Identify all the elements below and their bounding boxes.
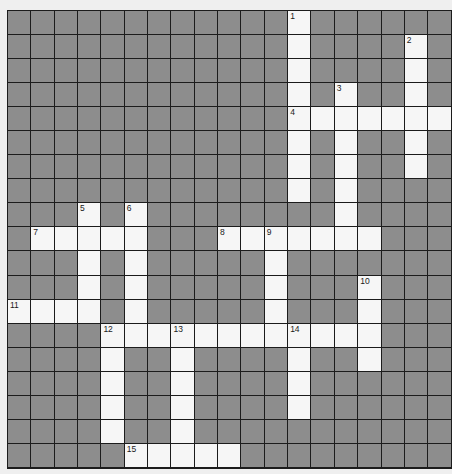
answer-cell[interactable]: 12 [101,324,124,348]
answer-cell[interactable] [428,107,451,131]
block-cell [55,203,78,227]
block-cell [358,35,381,59]
answer-cell[interactable] [335,203,358,227]
answer-cell[interactable] [241,227,264,251]
block-cell [148,203,171,227]
answer-cell[interactable] [171,420,194,444]
block-cell [241,11,264,35]
answer-cell[interactable] [265,300,288,324]
answer-cell[interactable] [218,324,241,348]
answer-cell[interactable] [55,227,78,251]
answer-cell[interactable] [101,372,124,396]
answer-cell[interactable] [382,107,405,131]
answer-cell[interactable]: 5 [78,203,101,227]
answer-cell[interactable] [288,179,311,203]
answer-cell[interactable] [78,251,101,275]
answer-cell[interactable] [405,83,428,107]
block-cell [148,59,171,83]
answer-cell[interactable] [358,348,381,372]
answer-cell[interactable] [125,300,148,324]
block-cell [428,179,451,203]
block-cell [358,420,381,444]
answer-cell[interactable] [405,131,428,155]
answer-cell[interactable]: 2 [405,35,428,59]
answer-cell[interactable] [125,251,148,275]
answer-cell[interactable] [288,372,311,396]
answer-cell[interactable] [101,348,124,372]
answer-cell[interactable]: 13 [171,324,194,348]
answer-cell[interactable] [288,227,311,251]
answer-cell[interactable] [31,300,54,324]
answer-cell[interactable] [335,179,358,203]
answer-cell[interactable] [358,324,381,348]
block-cell [265,203,288,227]
answer-cell[interactable] [125,324,148,348]
answer-cell[interactable]: 7 [31,227,54,251]
answer-cell[interactable] [405,107,428,131]
block-cell [358,203,381,227]
answer-cell[interactable] [335,131,358,155]
block-cell [78,444,101,468]
answer-cell[interactable] [148,324,171,348]
answer-cell[interactable]: 10 [358,276,381,300]
answer-cell[interactable] [288,59,311,83]
answer-cell[interactable] [265,276,288,300]
answer-cell[interactable] [218,444,241,468]
block-cell [218,155,241,179]
answer-cell[interactable] [405,59,428,83]
answer-cell[interactable]: 9 [265,227,288,251]
answer-cell[interactable] [358,107,381,131]
answer-cell[interactable] [311,107,334,131]
answer-cell[interactable] [288,131,311,155]
answer-cell[interactable] [335,107,358,131]
answer-cell[interactable] [78,227,101,251]
answer-cell[interactable] [148,444,171,468]
answer-cell[interactable]: 15 [125,444,148,468]
answer-cell[interactable] [335,227,358,251]
answer-cell[interactable]: 8 [218,227,241,251]
block-cell [8,11,31,35]
answer-cell[interactable] [288,396,311,420]
answer-cell[interactable] [265,251,288,275]
answer-cell[interactable] [311,324,334,348]
answer-cell[interactable] [288,83,311,107]
answer-cell[interactable] [288,35,311,59]
block-cell [148,35,171,59]
answer-cell[interactable] [288,155,311,179]
answer-cell[interactable] [335,155,358,179]
answer-cell[interactable] [101,420,124,444]
answer-cell[interactable] [195,324,218,348]
answer-cell[interactable] [125,227,148,251]
block-cell [428,444,451,468]
answer-cell[interactable] [195,444,218,468]
answer-cell[interactable]: 4 [288,107,311,131]
answer-cell[interactable] [171,372,194,396]
answer-cell[interactable] [405,155,428,179]
answer-cell[interactable] [358,300,381,324]
answer-cell[interactable] [265,324,288,348]
answer-cell[interactable] [335,324,358,348]
answer-cell[interactable] [171,348,194,372]
answer-cell[interactable] [55,300,78,324]
clue-number: 9 [267,228,272,237]
answer-cell[interactable]: 14 [288,324,311,348]
answer-cell[interactable] [171,396,194,420]
answer-cell[interactable] [78,276,101,300]
answer-cell[interactable] [101,227,124,251]
block-cell [335,300,358,324]
answer-cell[interactable]: 3 [335,83,358,107]
block-cell [218,372,241,396]
answer-cell[interactable] [241,324,264,348]
answer-cell[interactable] [101,396,124,420]
answer-cell[interactable] [311,227,334,251]
answer-cell[interactable] [171,444,194,468]
answer-cell[interactable] [288,348,311,372]
answer-cell[interactable]: 1 [288,11,311,35]
answer-cell[interactable] [125,276,148,300]
answer-cell[interactable] [78,300,101,324]
block-cell [195,179,218,203]
answer-cell[interactable] [358,227,381,251]
answer-cell[interactable]: 11 [8,300,31,324]
block-cell [55,420,78,444]
answer-cell[interactable]: 6 [125,203,148,227]
